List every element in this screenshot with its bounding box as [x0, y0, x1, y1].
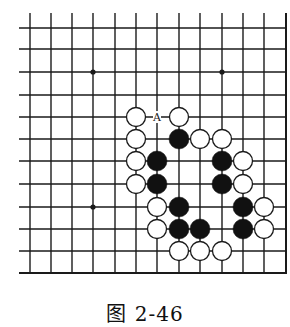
white-stone: [191, 130, 210, 149]
point-label-a: A: [152, 111, 162, 124]
white-stone: [127, 152, 146, 171]
white-stone: [148, 220, 167, 239]
go-board: A: [0, 0, 290, 290]
white-stone: [234, 152, 253, 171]
white-stone: [255, 220, 274, 239]
star-point-icon: [219, 69, 224, 74]
black-stone: [147, 174, 167, 194]
black-stone: [169, 219, 189, 239]
white-stone: [191, 242, 210, 261]
black-stone: [147, 151, 167, 171]
white-stone: [127, 108, 146, 127]
white-stone: [255, 198, 274, 217]
white-stone: [213, 242, 232, 261]
figure-caption: 图 2-46: [0, 298, 290, 327]
black-stone: [233, 219, 253, 239]
white-stone: [127, 175, 146, 194]
black-stone: [169, 129, 189, 149]
white-stone: [170, 108, 189, 127]
white-stone: [170, 242, 189, 261]
white-stone: [127, 130, 146, 149]
black-stone: [212, 151, 232, 171]
white-stone: [148, 198, 167, 217]
black-stone: [233, 197, 253, 217]
black-stone: [212, 174, 232, 194]
white-stone: [213, 130, 232, 149]
star-point-icon: [90, 69, 95, 74]
black-stone: [190, 219, 210, 239]
labels-layer: A: [152, 111, 162, 124]
white-stone: [234, 175, 253, 194]
black-stone: [169, 197, 189, 217]
star-point-icon: [90, 204, 95, 209]
